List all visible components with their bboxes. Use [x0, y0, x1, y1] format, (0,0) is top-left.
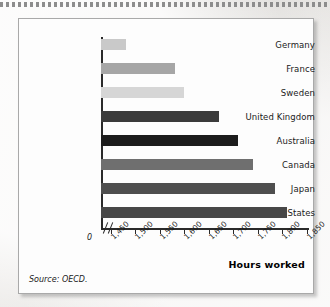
x-axis-tick-label-1650: 1,650	[207, 219, 229, 241]
bar-united-kingdom	[101, 111, 219, 122]
chart-plot-area: 0 Hours worked Source: OECD. GermanyFran…	[19, 19, 315, 295]
chart-figure-frame: 0 Hours worked Source: OECD. GermanyFran…	[18, 18, 314, 294]
x-axis-tick-label-1600: 1,600	[182, 219, 204, 241]
x-axis-title: Hours worked	[228, 259, 305, 270]
x-axis-tick-label-1700: 1,700	[231, 219, 253, 241]
bar-australia	[101, 135, 238, 146]
x-axis-tick-label-1550: 1,550	[158, 219, 180, 241]
bar-united-states	[101, 207, 287, 218]
category-label-australia: Australia	[237, 136, 315, 146]
category-label-germany: Germany	[237, 40, 315, 50]
category-label-france: France	[237, 64, 315, 74]
bar-sweden	[101, 87, 184, 98]
bar-germany	[101, 39, 126, 50]
x-axis-line	[101, 228, 309, 230]
category-label-sweden: Sweden	[237, 88, 315, 98]
x-axis-zero-label: 0	[87, 233, 92, 242]
x-axis-tick-label-1750: 1,750	[256, 219, 278, 241]
page-top-dotted-rule	[0, 2, 330, 7]
x-axis-tick-label-1800: 1,800	[280, 219, 302, 241]
source-note: Source: OECD.	[29, 275, 88, 284]
x-axis-tick-label-1500: 1,500	[133, 219, 155, 241]
category-label-united-kingdom: United Kingdom	[237, 112, 315, 122]
bar-canada	[101, 159, 253, 170]
bar-france	[101, 63, 175, 74]
bar-japan	[101, 183, 275, 194]
